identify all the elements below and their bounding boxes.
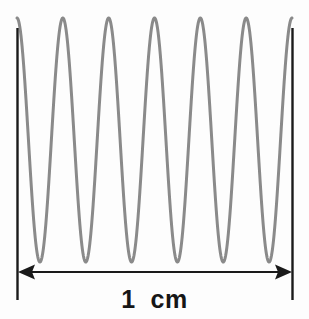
waveform-figure-svg bbox=[0, 0, 309, 319]
scale-bar-label: 1 cm bbox=[0, 285, 309, 314]
figure-container: 1 cm bbox=[0, 0, 309, 319]
